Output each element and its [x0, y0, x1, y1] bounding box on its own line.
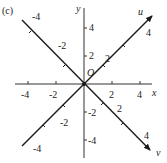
y-tick: -2 — [88, 107, 96, 118]
x-tick: 2 — [109, 89, 114, 100]
y-tick: 4 — [89, 22, 94, 33]
v-tick: 2 — [117, 103, 122, 114]
coordinate-diagram: (c) y x u v O -4 -2 2 4 4 2 -2 -4 -4 -2 … — [0, 0, 167, 163]
u-axis — [22, 16, 152, 146]
v-tick: 4 — [144, 130, 149, 141]
y-tick: 2 — [89, 50, 94, 61]
u-tick: 2 — [105, 53, 110, 64]
v-axis — [22, 20, 150, 150]
x-tick: 4 — [137, 89, 142, 100]
u-axis-label: u — [138, 6, 143, 17]
y-axis-label: y — [75, 3, 81, 14]
u-tick: -4 — [33, 143, 41, 154]
x-tick: -2 — [49, 89, 57, 100]
u-tick: -2 — [60, 117, 68, 128]
v-axis-label: v — [156, 147, 161, 158]
v-tick: -4 — [32, 11, 40, 22]
origin-label: O — [87, 67, 94, 78]
u-tick: 4 — [146, 27, 151, 38]
origin-point — [82, 82, 86, 86]
x-tick: -4 — [21, 89, 29, 100]
panel-label: (c) — [2, 5, 13, 17]
y-tick: -4 — [88, 135, 96, 146]
v-tick: -2 — [58, 40, 66, 51]
x-axis-label: x — [151, 87, 157, 98]
